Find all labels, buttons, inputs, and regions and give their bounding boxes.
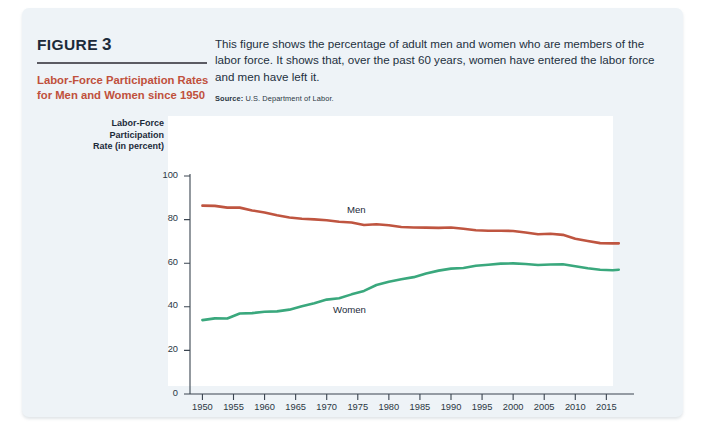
- y-tick-label: 100: [150, 170, 178, 180]
- x-tick-label: 1975: [341, 402, 375, 412]
- page-root: FIGURE3 Labor-Force Participation Rates …: [0, 0, 705, 448]
- series-annotation-women: Women: [333, 304, 366, 315]
- y-tick-label: 60: [150, 257, 178, 267]
- x-tick-label: 2000: [496, 402, 530, 412]
- x-tick-label: 1965: [279, 402, 313, 412]
- x-tick-label: 1995: [465, 402, 499, 412]
- figure-card: FIGURE3 Labor-Force Participation Rates …: [22, 8, 683, 417]
- series-line-men: [202, 206, 618, 244]
- y-tick-label: 0: [150, 388, 178, 398]
- y-tick-label: 20: [150, 344, 178, 354]
- x-tick-label: 1970: [310, 402, 344, 412]
- x-tick-label: 1955: [217, 402, 251, 412]
- series-line-women: [202, 263, 618, 320]
- y-tick-label: 80: [150, 213, 178, 223]
- series-annotation-men: Men: [347, 204, 366, 215]
- series-layer: [202, 206, 618, 320]
- x-tick-label: 1990: [434, 402, 468, 412]
- x-tick-label: 1980: [372, 402, 406, 412]
- x-tick-label: 1960: [248, 402, 282, 412]
- x-tick-label: 1950: [185, 402, 219, 412]
- axes-layer: [184, 174, 634, 400]
- x-tick-label: 2015: [589, 402, 623, 412]
- x-tick-label: 2005: [527, 402, 561, 412]
- y-tick-label: 40: [150, 300, 178, 310]
- chart: Labor-Force Participation Rate (in perce…: [22, 8, 683, 417]
- x-tick-label: 1985: [403, 402, 437, 412]
- x-tick-label: 2010: [558, 402, 592, 412]
